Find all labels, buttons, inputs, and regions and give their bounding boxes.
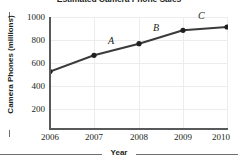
x-tick-2006: 2006 [33,132,67,142]
data-point-2007 [91,53,96,58]
data-point-2010 [224,24,228,29]
segment-label-a: A [108,36,114,46]
y-axis-line [49,17,51,129]
x-axis-line [49,128,228,130]
series-line-camera-phone-sales [50,17,228,128]
segment-label-b: B [153,23,159,33]
series-polyline [50,27,227,72]
chart-figure: Estimated Camera Phone Sales Camera Phon… [0,0,238,165]
y-tick-600: 600 [19,59,45,68]
segment-label-c: C [198,11,205,21]
x-tick-2007: 2007 [77,132,111,142]
y-tick-800: 800 [19,36,45,45]
x-tick-2009: 2009 [166,132,200,142]
plot-area: A B C [50,17,228,128]
y-tick-400: 400 [19,82,45,91]
x-axis-label-group: Year [0,148,238,160]
x-tick-2008: 2008 [122,132,156,142]
x-axis-label-rule-left [0,154,102,155]
x-tick-2010: 2010 [204,132,238,142]
y-axis-title: Camera Phones (millions) [6,12,15,118]
x-axis-label-rule-right [136,154,238,155]
data-point-2008 [136,41,141,46]
data-point-2009 [180,28,185,33]
y-tick-200: 200 [19,105,45,114]
y-tick-1000: 1000 [19,13,45,22]
x-axis-title: Year [107,148,132,157]
y-axis-label-rule-bottom [9,130,10,137]
y-axis-label-group: Camera Phones (millions) [2,10,18,138]
